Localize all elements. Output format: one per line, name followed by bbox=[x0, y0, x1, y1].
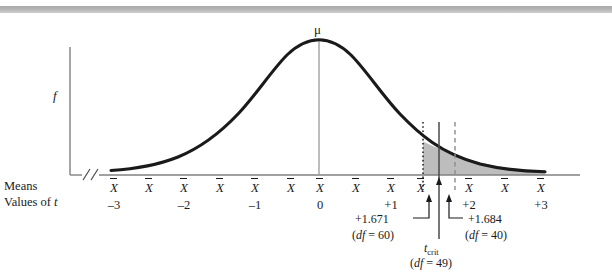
axis-break-slash-1 bbox=[83, 169, 90, 180]
mean-marker: X bbox=[461, 180, 477, 196]
mean-marker: X bbox=[497, 180, 513, 196]
xbar-glyph: X bbox=[180, 180, 188, 196]
annotation-tcrit-df: (df = 49) bbox=[410, 256, 452, 271]
tick-label-minus2: –2 bbox=[172, 198, 196, 213]
annotation-1684-value: +1.684 bbox=[468, 212, 502, 227]
arrow-head-1684 bbox=[446, 194, 452, 202]
tick-label-minus3: –3 bbox=[102, 198, 126, 213]
mean-marker: X bbox=[212, 180, 228, 196]
mean-marker: X bbox=[141, 180, 157, 196]
mean-marker: X bbox=[413, 180, 429, 196]
y-axis-label: f bbox=[53, 88, 57, 104]
values-of-t-prefix: Values of bbox=[4, 195, 54, 209]
df-value: = 60) bbox=[365, 228, 394, 242]
tick-label-zero: 0 bbox=[308, 198, 332, 213]
t-distribution-figure: μ f Means Values of t X X X X X X X X X … bbox=[0, 0, 612, 276]
tick-label-plus1: +1 bbox=[378, 198, 404, 213]
xbar-glyph: X bbox=[287, 180, 295, 196]
df-italic: df bbox=[414, 256, 423, 270]
mean-marker: X bbox=[533, 180, 549, 196]
xbar-glyph: X bbox=[387, 180, 395, 196]
values-of-t-italic: t bbox=[54, 195, 57, 209]
annotation-1671-df: (df = 60) bbox=[352, 228, 394, 243]
tick-label-plus3: +3 bbox=[528, 198, 554, 213]
xbar-glyph: X bbox=[501, 180, 509, 196]
mean-marker: X bbox=[283, 180, 299, 196]
means-row-label: Means bbox=[4, 179, 37, 194]
xbar-glyph: X bbox=[110, 180, 118, 196]
mean-marker: X bbox=[383, 180, 399, 196]
tick-label-minus1: –1 bbox=[243, 198, 267, 213]
distribution-plot bbox=[0, 0, 612, 276]
mean-marker: X bbox=[106, 180, 122, 196]
mean-marker: X bbox=[176, 180, 192, 196]
df-value: = 49) bbox=[423, 256, 452, 270]
mean-marker: X bbox=[312, 180, 328, 196]
arrow-head-tcrit bbox=[436, 177, 442, 185]
df-italic: df bbox=[356, 228, 365, 242]
tick-label-plus2: +2 bbox=[456, 198, 482, 213]
xbar-glyph: X bbox=[316, 180, 324, 196]
xbar-glyph: X bbox=[465, 180, 473, 196]
xbar-glyph: X bbox=[216, 180, 224, 196]
df-italic: df bbox=[469, 228, 478, 242]
df-value: = 40) bbox=[478, 228, 507, 242]
annotation-tcrit-label: tcrit bbox=[424, 241, 439, 257]
leader-line-1671 bbox=[413, 200, 429, 218]
xbar-glyph: X bbox=[251, 180, 259, 196]
annotation-1671-value: +1.671 bbox=[355, 212, 389, 227]
mean-marker: X bbox=[348, 180, 364, 196]
xbar-glyph: X bbox=[145, 180, 153, 196]
t-distribution-curve bbox=[111, 40, 545, 172]
values-of-t-row-label: Values of t bbox=[4, 195, 57, 210]
mean-marker: X bbox=[247, 180, 263, 196]
mu-label: μ bbox=[314, 22, 321, 38]
xbar-glyph: X bbox=[352, 180, 360, 196]
axis-break-slash-2 bbox=[91, 169, 98, 180]
xbar-glyph: X bbox=[417, 180, 425, 196]
annotation-1684-df: (df = 40) bbox=[465, 228, 507, 243]
xbar-glyph: X bbox=[537, 180, 545, 196]
